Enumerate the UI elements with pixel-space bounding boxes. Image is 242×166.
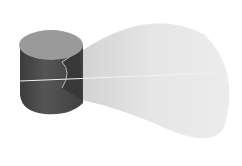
cylinder-cone-diagram	[0, 0, 242, 166]
cylinder-top	[19, 30, 83, 60]
cone-beam	[80, 23, 230, 138]
